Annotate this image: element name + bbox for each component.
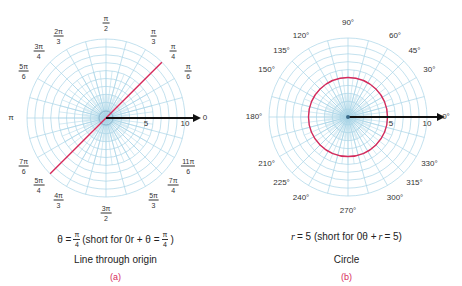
angle-label: 5π4 (33, 177, 44, 194)
angle-label: 120° (293, 32, 310, 40)
angle-label: 2π3 (53, 27, 64, 44)
angle-label: 210° (258, 160, 275, 168)
angle-label: 3π2 (101, 205, 112, 222)
angle-label: 315° (406, 179, 423, 187)
angle-label: 45° (408, 47, 420, 55)
angle-label: 180° (246, 113, 263, 121)
fraction-pi-over-4: π 4 (73, 231, 80, 248)
polar-grid-b (231, 0, 462, 230)
angle-label: 5π6 (18, 62, 29, 79)
equation-b: r = 5 (short for 0θ + r = 5) (231, 231, 462, 242)
angle-label: 270° (340, 207, 357, 215)
sublabel-a: (a) (0, 272, 231, 282)
panel-b-circle: 90°60°45°30°120°135°150°180°210°225°240°… (231, 0, 462, 286)
angle-label: 11π6 (181, 157, 195, 174)
angle-label: 5π3 (148, 192, 159, 209)
sublabel-b: (b) (231, 272, 462, 282)
angle-label: 300° (387, 194, 404, 202)
angle-label: 135° (273, 47, 290, 55)
equation-a: θ = π 4 (short for 0r + θ = π 4 ) (0, 231, 231, 248)
angle-label: 0 (203, 114, 207, 122)
angle-label: π6 (185, 62, 192, 79)
angle-label: 90° (342, 19, 354, 27)
angle-label: π3 (150, 27, 157, 44)
angle-label: 60° (389, 32, 401, 40)
panel-a-line-through-origin: π2π3π4π62π33π45π6π7π65π44π33π25π37π411π6… (0, 0, 231, 286)
polar-grid-a (0, 0, 231, 230)
angle-label: 240° (293, 194, 310, 202)
caption-title-a: Line through origin (0, 254, 231, 265)
angle-label: 3π4 (33, 42, 44, 59)
angle-label: 7π6 (18, 157, 29, 174)
caption-title-b: Circle (231, 254, 462, 265)
radial-tick-5: 5 (144, 119, 148, 128)
radial-tick-5: 5 (389, 119, 393, 128)
angle-label: 0° (442, 113, 450, 121)
angle-label: π2 (103, 15, 110, 32)
angle-label: 225° (273, 179, 290, 187)
equation-short: (short for 0r + θ = (82, 234, 159, 245)
equation-lhs: θ = (57, 234, 71, 245)
angle-label: π4 (170, 42, 177, 59)
angle-label: 150° (258, 66, 275, 74)
angle-label: 30° (423, 66, 435, 74)
angle-label: 4π3 (53, 192, 64, 209)
radial-tick-10: 10 (423, 119, 432, 128)
angle-label: 330° (421, 160, 438, 168)
angle-label: π (8, 114, 14, 122)
fraction-pi-over-4-short: π 4 (162, 231, 169, 248)
radial-tick-10: 10 (181, 119, 190, 128)
angle-label: 7π4 (168, 177, 179, 194)
